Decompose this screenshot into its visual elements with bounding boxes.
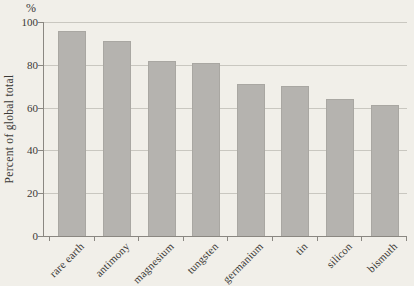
y-tick-mark — [38, 65, 43, 66]
x-tick-mark — [94, 237, 95, 241]
grid-line-80 — [44, 65, 407, 66]
bar-tin — [281, 86, 309, 236]
bar-antimony — [103, 41, 131, 236]
y-tick-mark — [38, 108, 43, 109]
plot-area — [43, 22, 407, 237]
x-tick-mark — [227, 237, 228, 241]
y-tick-label-60: 60 — [0, 101, 38, 115]
y-tick-mark — [38, 150, 43, 151]
category-label-tungsten: tungsten — [185, 240, 221, 276]
bar-silicon — [326, 99, 354, 236]
category-label-magnesium: magnesium — [130, 240, 176, 286]
y-tick-label-20: 20 — [0, 186, 38, 200]
category-label-antimony: antimony — [92, 240, 131, 279]
bar-tungsten — [192, 63, 220, 236]
x-tick-mark — [49, 237, 50, 241]
y-axis-title: Percent of global total — [2, 22, 16, 236]
x-tick-mark — [272, 237, 273, 241]
category-label-silicon: silicon — [324, 240, 354, 270]
x-tick-mark — [361, 237, 362, 241]
y-tick-mark — [38, 22, 43, 23]
bar-rare-earth — [58, 31, 86, 236]
bar-germanium — [237, 84, 265, 236]
category-label-germanium: germanium — [220, 240, 265, 285]
bar-bismuth — [371, 105, 399, 236]
category-label-rare-earth: rare earth — [47, 240, 86, 279]
x-tick-mark — [138, 237, 139, 241]
x-tick-mark — [406, 237, 407, 241]
y-axis-unit-label: % — [20, 1, 42, 16]
y-tick-label-0: 0 — [0, 229, 38, 243]
bar-magnesium — [148, 61, 176, 236]
y-tick-mark — [38, 193, 43, 194]
y-tick-label-40: 40 — [0, 143, 38, 157]
y-tick-label-100: 100 — [0, 15, 38, 29]
category-label-bismuth: bismuth — [364, 240, 399, 275]
x-tick-mark — [183, 237, 184, 241]
y-tick-label-80: 80 — [0, 58, 38, 72]
category-label-tin: tin — [293, 240, 310, 257]
y-tick-mark — [38, 236, 43, 237]
grid-line-100 — [44, 22, 407, 23]
bar-chart: % Percent of global total 020406080100 r… — [0, 0, 414, 286]
x-tick-mark — [317, 237, 318, 241]
